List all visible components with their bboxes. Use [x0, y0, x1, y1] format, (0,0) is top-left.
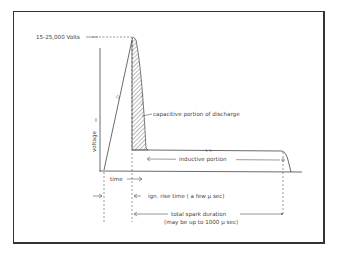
duration-label-line2: (may be up to 1000 µ sec): [164, 219, 238, 226]
x-axis: [99, 171, 302, 172]
rise-time-label: ign. rise time ( a few µ sec): [148, 193, 225, 200]
duration-label-line1: total spark duration: [171, 211, 227, 218]
capacitive-label: capacitive portion of discharge: [153, 111, 240, 118]
inductive-label: inductive portion: [179, 156, 227, 163]
spark-discharge-diagram: 15-25,000 Volts voltage capacitive porti…: [0, 0, 338, 255]
y-axis-label: voltage: [91, 131, 98, 152]
x-axis-label: time: [110, 176, 123, 182]
capacitive-region: [132, 38, 148, 151]
rise-line: [104, 40, 132, 170]
peak-voltage-label: 15-25,000 Volts: [36, 34, 80, 40]
